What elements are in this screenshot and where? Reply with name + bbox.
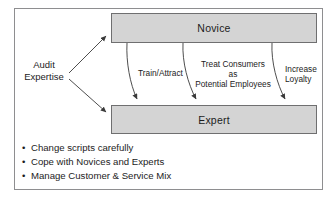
list-item: • Change scripts carefully [22,141,171,155]
edge-label-increase-line1: Increase [285,64,329,74]
diagram-figure: Novice Expert Audit Expertise Train/Attr… [0,0,335,202]
arrow-expertise-to-expert [69,79,106,112]
list-item: • Manage Customer & Service Mix [22,169,171,183]
list-item-label: Manage Customer & Service Mix [31,170,171,181]
edge-label-treat-line1: Treat Consumers [190,59,276,69]
node-novice[interactable]: Novice [111,13,317,43]
list-item-label: Change scripts carefully [31,142,133,153]
edge-label-train-attract-text: Train/Attract [138,68,183,78]
edge-label-increase-line2: Loyalty [285,74,329,84]
bullet-icon: • [22,155,25,169]
node-novice-label: Novice [197,22,230,34]
bullet-icon: • [22,169,25,183]
edge-label-train-attract: Train/Attract [138,68,183,78]
node-expert[interactable]: Expert [111,105,317,134]
source-label-line2: Expertise [18,71,70,83]
list-item-label: Cope with Novices and Experts [31,156,164,167]
node-expert-label: Expert [198,114,230,126]
source-label-audit-expertise: Audit Expertise [18,59,70,83]
edge-label-treat-line3: Potential Employees [190,79,276,89]
bullet-icon: • [22,141,25,155]
edge-label-treat-consumers: Treat Consumers as Potential Employees [190,59,276,89]
arrow-expertise-to-novice [69,36,106,73]
recommendation-list: • Change scripts carefully • Cope with N… [22,141,171,183]
arrow-novice-to-expert-train [127,43,137,99]
source-label-line1: Audit [18,59,70,71]
list-item: • Cope with Novices and Experts [22,155,171,169]
edge-label-increase-loyalty: Increase Loyalty [285,64,329,84]
edge-label-treat-line2: as [190,69,276,79]
